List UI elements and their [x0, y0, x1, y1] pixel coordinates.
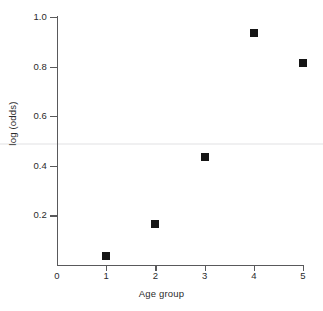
y-tick-mark-0.6 — [50, 116, 57, 117]
y-tick-mark-1.0 — [50, 17, 57, 18]
x-tick-label-4: 4 — [242, 271, 266, 281]
x-axis-label: Age group — [0, 288, 323, 299]
y-tick-label-0.4: 0.4 — [7, 161, 47, 171]
scatter-plot-figure: 1.0 0.8 0.6 0.4 0.2 1 2 3 4 5 0 Age grou… — [0, 0, 323, 311]
x-tick-label-1: 1 — [94, 271, 118, 281]
data-point-marker — [201, 153, 209, 161]
x-tick-label-5: 5 — [291, 271, 315, 281]
data-point-marker — [250, 29, 258, 37]
data-point-marker — [299, 59, 307, 67]
x-axis-line — [57, 265, 304, 266]
y-tick-label-0.2: 0.2 — [7, 210, 47, 220]
scan-artifact-line — [0, 143, 323, 145]
origin-tick-label: 0 — [45, 271, 69, 281]
data-point-marker — [151, 220, 159, 228]
y-axis-label: log (odds) — [7, 94, 18, 154]
y-tick-mark-0.4 — [50, 166, 57, 167]
y-tick-mark-0.2 — [50, 215, 57, 216]
data-point-marker — [102, 252, 110, 260]
y-tick-mark-0.8 — [50, 67, 57, 68]
y-tick-label-0.8: 0.8 — [7, 62, 47, 72]
y-axis-line — [57, 16, 58, 266]
x-tick-label-2: 2 — [143, 271, 167, 281]
x-tick-label-3: 3 — [193, 271, 217, 281]
y-tick-label-1.0: 1.0 — [7, 12, 47, 22]
